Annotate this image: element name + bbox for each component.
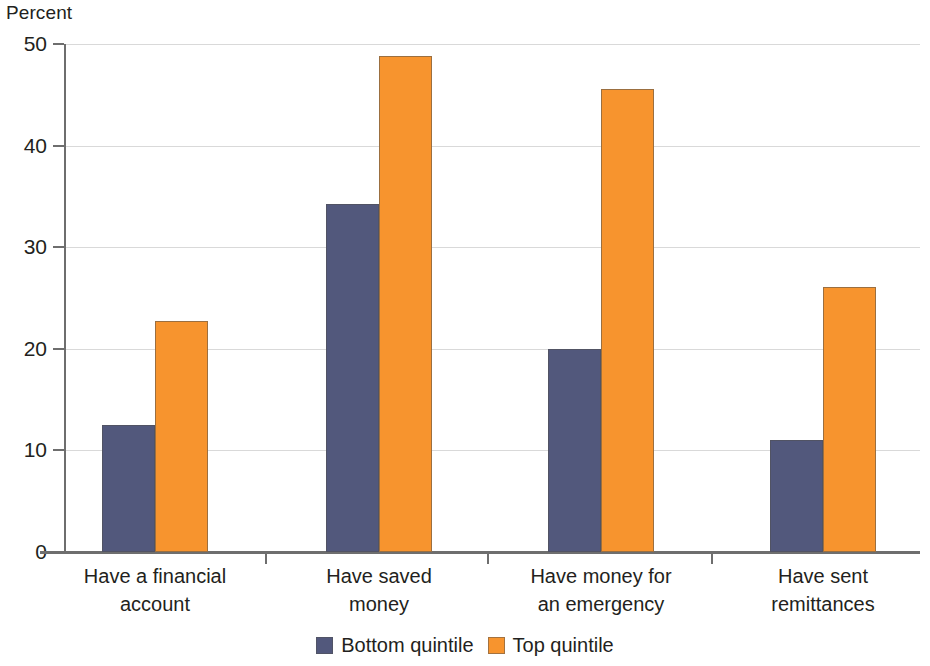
y-tick-mark <box>53 348 64 350</box>
plot-area <box>64 44 920 552</box>
y-tick-mark <box>53 246 64 248</box>
y-tick-label: 40 <box>24 135 47 156</box>
y-tick-label: 10 <box>24 439 47 460</box>
bar <box>548 349 601 552</box>
bar <box>326 204 379 552</box>
legend-entry[interactable]: Bottom quintile <box>316 634 473 657</box>
y-tick-label-wrap: 30 <box>0 236 47 258</box>
x-axis-category-label: Have sentremittances <box>713 562 930 618</box>
category-label-line: remittances <box>713 590 930 618</box>
y-axis-title: Percent <box>6 2 72 24</box>
x-axis-category-label: Have savedmoney <box>269 562 489 618</box>
x-axis-category-label: Have money foran emergency <box>491 562 711 618</box>
y-tick-label-wrap: 40 <box>0 135 47 157</box>
bar-chart: Percent 01020304050 Have a financialacco… <box>0 0 930 666</box>
bar <box>823 287 876 552</box>
category-label-line: Have money for <box>530 565 671 587</box>
x-axis-category-label: Have a financialaccount <box>45 562 265 618</box>
bar <box>601 89 654 552</box>
category-label-line: an emergency <box>491 590 711 618</box>
chart-legend: Bottom quintileTop quintile <box>0 634 930 657</box>
category-label-line: money <box>269 590 489 618</box>
y-tick-label-wrap: 50 <box>0 33 47 55</box>
legend-swatch <box>316 637 333 654</box>
y-tick-mark <box>53 43 64 45</box>
x-tick-mark <box>265 553 267 564</box>
legend-swatch <box>488 637 505 654</box>
y-tick-label-wrap: 20 <box>0 338 47 360</box>
category-label-line: Have saved <box>326 565 432 587</box>
bar <box>379 56 432 552</box>
legend-entry[interactable]: Top quintile <box>488 634 614 657</box>
y-tick-label: 50 <box>24 33 47 54</box>
y-tick-label: 20 <box>24 338 47 359</box>
y-tick-mark <box>53 145 64 147</box>
category-label-line: Have a financial <box>84 565 226 587</box>
y-tick-mark <box>53 449 64 451</box>
legend-label: Bottom quintile <box>341 634 473 657</box>
bar <box>155 321 208 552</box>
bar <box>102 425 155 552</box>
category-label-line: Have sent <box>778 565 868 587</box>
y-tick-label: 30 <box>24 236 47 257</box>
bar <box>770 440 823 552</box>
category-label-line: account <box>45 590 265 618</box>
legend-label: Top quintile <box>513 634 614 657</box>
y-tick-label-wrap: 10 <box>0 439 47 461</box>
